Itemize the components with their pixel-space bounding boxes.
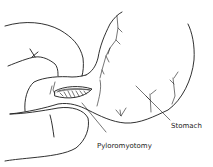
- lower-finger: [5, 107, 89, 161]
- pylorus-outline: [10, 24, 194, 123]
- leader-lines: [82, 86, 170, 132]
- stomach-leader: [136, 86, 170, 120]
- stomach-outline: [86, 12, 122, 75]
- pyloromyotomy-incision: [55, 87, 92, 98]
- pyloromyotomy-leader: [82, 103, 106, 132]
- upper-finger: [5, 23, 83, 76]
- blood-vessels: [50, 16, 178, 116]
- diagram-canvas: Pyloromyotomy Stomach: [0, 0, 213, 167]
- pyloromyotomy-label: Pyloromyotomy: [97, 142, 152, 150]
- stomach-label: Stomach: [171, 122, 202, 130]
